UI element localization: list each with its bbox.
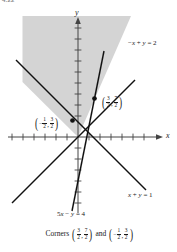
plot-area: y x −x + y = 2 x + y = 1 5x − y = 4 ( 3 … <box>0 0 177 222</box>
caption-point-a: ( 3 2 , 7 2 ) <box>71 228 93 240</box>
paren-open: ( <box>109 229 112 240</box>
denominator: 2 <box>114 103 118 109</box>
paren-close: ) <box>55 118 58 129</box>
point-label-upper-right: ( 3 2 , 7 2 ) <box>101 96 123 108</box>
x-axis-label: x <box>166 132 170 140</box>
fraction-y-a: 7 2 <box>84 228 89 240</box>
denominator: 2 <box>77 235 81 241</box>
figure-container: 4.22 <box>0 0 177 252</box>
figure-caption: Corners ( 3 2 , 7 2 ) and ( − 1 <box>0 228 177 240</box>
caption-point-b: ( − 1 2 , 3 2 ) <box>108 228 133 240</box>
corner-point-upper-right <box>92 96 97 101</box>
equation-label-5x-minus-y: 5x − y = 4 <box>57 211 85 218</box>
fraction-y-left: 3 2 <box>49 117 54 129</box>
paren-close: ) <box>130 229 133 240</box>
coordinate-plot <box>0 0 177 222</box>
denominator: 2 <box>124 235 128 241</box>
denominator: 2 <box>84 235 88 241</box>
paren-open: ( <box>102 97 105 108</box>
point-label-left: ( − 1 2 , 3 2 ) <box>34 117 59 129</box>
denominator: 2 <box>42 124 46 130</box>
corner-point-left <box>70 118 75 123</box>
y-axis-label: y <box>75 9 79 17</box>
caption-conjunction: and <box>95 230 106 238</box>
denominator: 2 <box>50 124 54 130</box>
x-axis-arrow <box>156 134 163 140</box>
paren-close: ) <box>89 229 92 240</box>
paren-close: ) <box>119 97 122 108</box>
caption-lead: Corners <box>45 230 69 238</box>
fraction-y-b: 3 2 <box>124 228 129 240</box>
equation-label-x-plus-y: x + y = 1 <box>128 192 153 199</box>
fraction-y-upper-right: 7 2 <box>113 96 118 108</box>
paren-open: ( <box>72 229 75 240</box>
equation-label-neg-x-plus-y: −x + y = 2 <box>128 40 157 47</box>
denominator: 2 <box>117 235 121 241</box>
denominator: 2 <box>106 103 110 109</box>
paren-open: ( <box>35 118 38 129</box>
